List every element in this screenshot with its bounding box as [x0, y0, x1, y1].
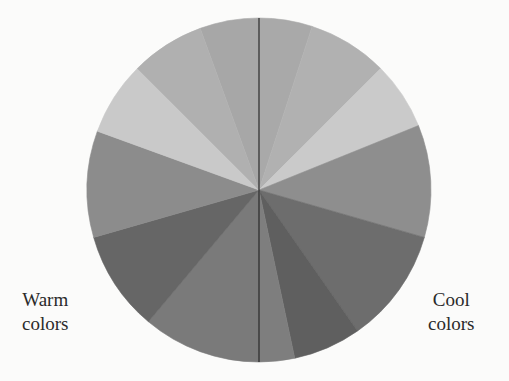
warm-label-line1: Warm	[22, 288, 68, 312]
warm-colors-label: Warm colors	[22, 288, 68, 336]
cool-label-line1: Cool	[428, 288, 474, 312]
cool-label-line2: colors	[428, 312, 474, 336]
cool-colors-label: Cool colors	[428, 288, 474, 336]
warm-label-line2: colors	[22, 312, 68, 336]
